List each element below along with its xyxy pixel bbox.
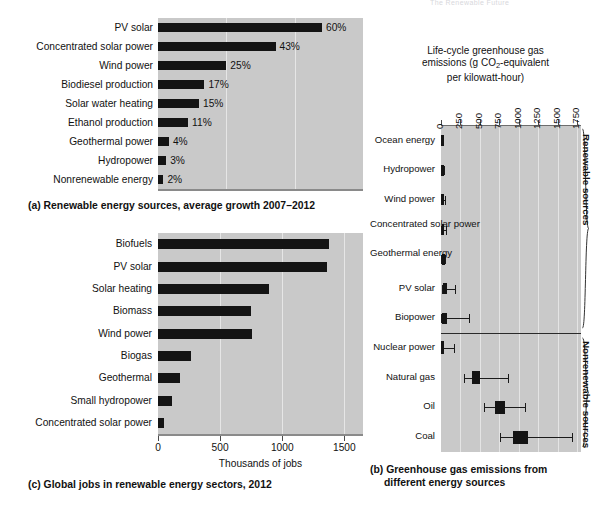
table-row (158, 396, 172, 406)
panel-b-gridline (577, 126, 578, 452)
panel-b-box (443, 283, 447, 294)
panel-b-whisker-cap (455, 285, 456, 294)
panel-c-category-label: Small hydropower (0, 395, 152, 406)
panel-a-bar-value: 60% (326, 22, 346, 33)
panel-b-tick-label: 750 (492, 113, 503, 129)
panel-b-category-label: Geothermal energy (370, 248, 435, 258)
panel-b-whisker-cap (444, 166, 445, 175)
panel-b-group-label-nonrenewable: Nonrenewable sources (581, 341, 592, 448)
panel-c-x-axis-title: Thousands of jobs (158, 458, 363, 469)
table-row (158, 42, 276, 51)
table-row (158, 61, 226, 70)
panel-b-axis-title: Life-cycle greenhouse gas emissions (g C… (378, 45, 593, 84)
panel-c-category-label: Biomass (0, 305, 152, 316)
panel-c-tick (220, 436, 221, 441)
panel-b-plot-area (441, 126, 581, 452)
panel-b-caption-line1: (b) Greenhouse gas emissions from (370, 463, 598, 476)
panel-b-category-label: Wind power (370, 194, 435, 204)
panel-c-tick-label: 1500 (319, 442, 369, 453)
panel-c-tick-label: 1000 (257, 442, 307, 453)
panel-c-tick (344, 436, 345, 441)
panel-c-plot-area (158, 233, 363, 434)
panel-b-group-label-renewable: Renewable sources (581, 134, 592, 225)
panel-b-box (441, 341, 444, 354)
table-row (158, 262, 327, 272)
panel-a-category-label: Concentrated solar power (0, 41, 153, 52)
table-row (158, 284, 269, 294)
panel-b-tick-label: 250 (453, 113, 464, 129)
panel-b-box (495, 401, 505, 414)
panel-c-category-label: Geothermal (0, 372, 152, 383)
panel-b-whisker-cap (469, 314, 470, 323)
table-row (158, 373, 180, 383)
panel-a-plot-inner (158, 18, 363, 189)
panel-a-category-label: Ethanol production (0, 117, 153, 128)
table-row (158, 418, 164, 428)
panel-a-bar-value: 3% (170, 155, 185, 166)
panel-b-plot-inner (441, 126, 581, 452)
table-row (158, 351, 191, 361)
panel-b-gridline (460, 126, 461, 452)
panel-c-tick (282, 436, 283, 441)
panel-a-bar-value: 4% (173, 136, 188, 147)
panel-a-bar-value: 25% (230, 60, 250, 71)
panel-c-caption: (c) Global jobs in renewable energy sect… (28, 478, 358, 491)
panel-b-gridline (519, 126, 520, 452)
panel-b-category-label: PV solar (370, 283, 435, 293)
panel-b-caption-line2: different energy sources (384, 476, 598, 489)
panel-b-box (442, 313, 447, 324)
panel-b-gridline (480, 126, 481, 452)
panel-b-box (441, 165, 444, 176)
panel-a-category-label: Hydropower (0, 155, 153, 166)
panel-b-tick-label: 1250 (531, 108, 542, 129)
table-row (158, 118, 188, 127)
panel-b-whisker-cap (445, 196, 446, 205)
panel-b-box (472, 371, 480, 384)
panel-a-bar-value: 43% (280, 41, 300, 52)
panel-b-whisker-cap (525, 403, 526, 412)
table-row (158, 99, 199, 108)
table-row (158, 137, 169, 146)
panel-b-gridline (538, 126, 539, 452)
panel-b-category-label: Ocean energy (370, 135, 435, 145)
panel-b-whisker-cap (500, 433, 501, 442)
panel-b-axis-title-line1: Life-cycle greenhouse gas (378, 45, 593, 57)
panel-b-whisker-cap (464, 374, 465, 383)
panel-b-category-label: Biopower (370, 312, 435, 322)
panel-c-axis-line (158, 434, 363, 436)
table-row (158, 23, 322, 32)
panel-b-category-label: Concentrated solar power (370, 219, 435, 229)
panel-b-tick-label: 500 (473, 113, 484, 129)
panel-c-tick-label: 500 (195, 442, 245, 453)
panel-b-caption: (b) Greenhouse gas emissions from differ… (370, 463, 598, 489)
table-row (158, 329, 252, 339)
panel-b-whisker-cap (454, 344, 455, 353)
panel-b-category-label: Oil (370, 401, 435, 411)
panel-a-bar-value: 17% (208, 79, 228, 90)
panel-c-renewable-jobs: BiofuelsPV solarSolar heatingBiomassWind… (0, 228, 370, 507)
panel-b-group-divider (441, 333, 581, 334)
panel-c-tick-label: 0 (133, 442, 183, 453)
table-row (158, 80, 204, 89)
panel-a-category-label: PV solar (0, 22, 153, 33)
table-row (158, 239, 329, 249)
panel-b-axis-title-line3: per kilowatt-hour) (378, 72, 593, 84)
table-row (158, 306, 251, 316)
panel-b-axis-title-line2: emissions (g CO2-equivalent (378, 57, 593, 72)
panel-a-axis-line (158, 189, 363, 191)
panel-b-tick-label: 1750 (570, 108, 581, 129)
panel-b-whisker-cap (572, 433, 573, 442)
panel-b-category-label: Nuclear power (370, 342, 435, 352)
panel-b-tick-label: 1000 (512, 108, 523, 129)
axis-title-l2-post: -equivalent (500, 57, 549, 68)
panel-a-plot-area (158, 18, 363, 189)
panel-b-category-label: Natural gas (370, 372, 435, 382)
panel-b-ghg-emissions: Life-cycle greenhouse gas emissions (g C… (370, 0, 603, 507)
panel-c-category-label: Solar heating (0, 283, 152, 294)
panel-c-category-label: Biofuels (0, 238, 152, 249)
panel-b-box (441, 194, 444, 205)
panel-a-bar-value: 15% (203, 98, 223, 109)
panel-a-category-label: Solar water heating (0, 98, 153, 109)
panel-b-whisker (464, 378, 508, 379)
panel-b-whisker-cap (508, 374, 509, 383)
